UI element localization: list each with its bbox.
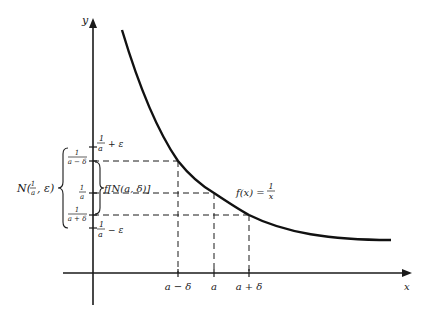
svg-text:, ε): , ε) <box>37 182 54 195</box>
svg-text:1: 1 <box>268 182 273 191</box>
diagram-canvas: x y a − δ a a + δ 1 a + ε 1 a − ε 1 a − … <box>0 0 422 317</box>
y-axis-arrow-icon <box>89 18 97 28</box>
svg-text:a + δ: a + δ <box>68 215 87 223</box>
hyperbola-curve <box>122 30 391 240</box>
svg-text:+ ε: + ε <box>108 139 123 149</box>
y-label-f-a: 1 a <box>79 184 86 201</box>
function-continuity-diagram: x y a − δ a a + δ 1 a + ε 1 a − ε 1 a − … <box>0 0 422 317</box>
x-tick-a-plus-delta: a + δ <box>236 281 263 292</box>
y-label-upper-epsilon: 1 a + ε <box>97 134 123 153</box>
image-interval-label: f[N(a, δ)] <box>103 183 150 194</box>
svg-text:1: 1 <box>80 184 84 192</box>
y-label-lower-epsilon: 1 a − ε <box>97 220 123 239</box>
svg-text:N(: N( <box>16 182 32 195</box>
y-axis-label: y <box>81 14 89 27</box>
svg-text:1: 1 <box>31 180 35 188</box>
neighborhood-label: N( 1 a , ε) <box>16 180 54 197</box>
svg-text:− ε: − ε <box>108 225 123 235</box>
neighborhood-brace <box>58 148 68 228</box>
y-label-f-a-plus-delta: 1 a + δ <box>68 206 87 223</box>
svg-text:f(x) =: f(x) = <box>235 187 265 198</box>
svg-text:a − δ: a − δ <box>68 158 87 166</box>
x-tick-a: a <box>211 281 217 292</box>
svg-text:a: a <box>98 144 103 153</box>
image-interval-brace <box>95 162 104 214</box>
svg-text:1: 1 <box>99 134 104 143</box>
x-axis-label: x <box>404 281 410 292</box>
svg-text:1: 1 <box>99 220 104 229</box>
svg-text:1: 1 <box>75 206 79 214</box>
y-label-f-a-minus-delta: 1 a − δ <box>68 149 87 166</box>
x-tick-a-minus-delta: a − δ <box>165 281 192 292</box>
svg-text:a: a <box>98 230 103 239</box>
svg-text:x: x <box>269 192 274 201</box>
svg-text:a: a <box>80 193 84 201</box>
x-axis-arrow-icon <box>402 269 412 277</box>
svg-text:a: a <box>31 189 35 197</box>
svg-text:1: 1 <box>75 149 79 157</box>
curve-label: f(x) = 1 x <box>235 182 275 201</box>
